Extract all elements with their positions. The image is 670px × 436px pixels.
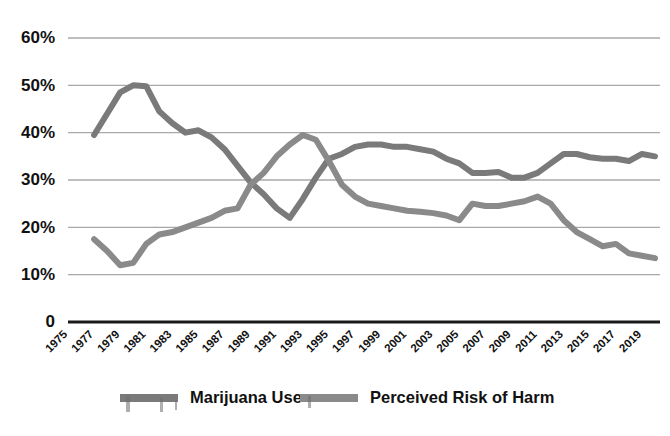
line-chart-plot: 010%20%30%40%50%60% 19751977197919811983…	[0, 0, 670, 436]
x-axis-tick-label: 1991	[252, 328, 279, 355]
legend-item: Marijuana Use	[120, 388, 302, 406]
y-axis-tick-label: 50%	[21, 76, 55, 95]
x-axis-tick-label: 2015	[565, 328, 592, 355]
x-axis-tick-label: 2009	[486, 328, 513, 355]
y-axis-tick-label: 60%	[21, 28, 55, 47]
data-series-group	[94, 85, 655, 265]
x-axis-tick-label: 2005	[434, 328, 461, 355]
x-axis-tick-label: 1979	[95, 328, 122, 355]
x-axis-tick-label: 2017	[591, 328, 618, 355]
chart-legend: Marijuana UsePerceived Risk of Harm	[120, 388, 554, 406]
x-axis-tick-label: 2013	[539, 328, 566, 355]
y-axis-tick-labels: 010%20%30%40%50%60%	[21, 28, 55, 331]
y-axis-tick-label: 20%	[21, 218, 55, 237]
x-axis-tick-label: 1975	[43, 328, 70, 355]
x-axis-tick-label: 1983	[147, 328, 174, 355]
x-axis-tick-label: 1985	[173, 328, 200, 355]
y-axis-tick-label: 40%	[21, 123, 55, 142]
x-axis-tick-label: 1997	[330, 328, 357, 355]
x-axis-tick-label: 1981	[121, 328, 148, 355]
x-axis-tick-label: 1989	[225, 328, 252, 355]
legend-label: Perceived Risk of Harm	[370, 388, 554, 406]
y-axis-tick-label: 10%	[21, 265, 55, 284]
x-axis-tick-label: 2003	[408, 328, 435, 355]
x-axis-tick-label: 1977	[69, 328, 96, 355]
legend-label: Marijuana Use	[190, 388, 302, 406]
scan-smudge	[308, 396, 311, 408]
x-axis-tick-label: 2001	[382, 328, 409, 355]
y-axis-tick-label: 30%	[21, 170, 55, 189]
chart-container: 010%20%30%40%50%60% 19751977197919811983…	[0, 0, 670, 436]
series-line-marijuana-use	[94, 85, 655, 218]
scan-smudge	[175, 400, 177, 410]
x-axis-tick-label: 2011	[513, 328, 540, 355]
x-axis-tick-labels: 1975197719791981198319851987198919911993…	[43, 328, 644, 355]
x-axis-tick-label: 1999	[356, 328, 383, 355]
scan-smudge	[160, 398, 163, 412]
y-axis-tick-label: 0	[46, 312, 55, 331]
x-axis-tick-label: 2007	[460, 328, 487, 355]
scan-smudge	[126, 396, 130, 412]
x-axis-tick-label: 1987	[199, 328, 226, 355]
x-axis-tick-label: 1995	[304, 328, 331, 355]
x-axis-tick-label: 2019	[617, 328, 644, 355]
x-axis-tick-label: 1993	[278, 328, 305, 355]
legend-item: Perceived Risk of Harm	[300, 388, 554, 406]
